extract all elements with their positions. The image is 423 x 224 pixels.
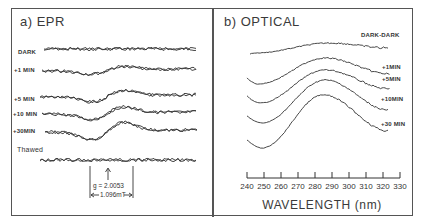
optical-trace <box>250 43 388 55</box>
optical-traces <box>247 43 390 149</box>
optical-trace <box>247 80 388 124</box>
plot-canvas <box>0 0 423 224</box>
epr-trace <box>45 121 197 141</box>
epr-trace <box>42 106 196 121</box>
epr-traces <box>40 47 197 161</box>
epr-trace <box>45 122 197 141</box>
g-value-bracket <box>90 166 133 198</box>
figure: a) EPR DARK +1 MIN +5 MIN +10 MIN +30MIN… <box>0 0 423 224</box>
x-axis <box>247 172 400 178</box>
epr-trace <box>42 106 196 121</box>
epr-trace <box>42 65 196 75</box>
optical-trace <box>247 70 390 103</box>
epr-trace <box>40 89 196 103</box>
